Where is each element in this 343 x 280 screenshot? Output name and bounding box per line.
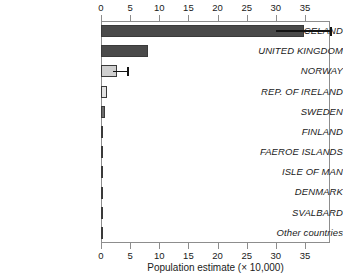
category-label-rep-of-ireland: REP. OF IRELAND [245, 82, 343, 102]
tick-mark-bot-0 [101, 243, 102, 249]
tick-label-bot-15: 15 [173, 250, 203, 261]
tick-label-bot-25: 25 [232, 250, 262, 261]
category-label-norway: NORWAY [245, 61, 343, 81]
bar-row: DENMARK [0, 182, 343, 202]
bar-row: FAEROE ISLANDS [0, 142, 343, 162]
population-estimate-bar-chart: 05101520253035 05101520253035 ICELANDUNI… [0, 0, 343, 280]
bar-rep-of-ireland [101, 86, 107, 98]
tick-label-top-10: 10 [144, 2, 174, 13]
tick-label-top-30: 30 [261, 2, 291, 13]
tick-mark-bot-10 [159, 243, 160, 249]
bar-row: NORWAY [0, 61, 343, 81]
tick-mark-bot-20 [218, 243, 219, 249]
error-bar-line [113, 71, 128, 73]
bar-denmark [101, 187, 103, 199]
error-bar-cap [330, 27, 332, 36]
tick-label-top-20: 20 [203, 2, 233, 13]
bar-other-countries [101, 227, 103, 239]
bar-row: REP. OF IRELAND [0, 82, 343, 102]
tick-label-bot-0: 0 [86, 250, 116, 261]
tick-mark-bot-15 [188, 243, 189, 249]
category-label-denmark: DENMARK [245, 182, 343, 202]
tick-label-top-15: 15 [173, 2, 203, 13]
tick-mark-bot-35 [305, 243, 306, 249]
tick-mark-bot-25 [247, 243, 248, 249]
category-label-sweden: SWEDEN [245, 102, 343, 122]
bar-row: ICELAND [0, 21, 343, 41]
bar-row: SWEDEN [0, 102, 343, 122]
category-label-faeroe-islands: FAEROE ISLANDS [245, 142, 343, 162]
bar-row: FINLAND [0, 122, 343, 142]
tick-label-top-5: 5 [115, 2, 145, 13]
bar-iceland [101, 25, 304, 37]
category-label-united-kingdom: UNITED KINGDOM [245, 41, 343, 61]
bar-row: Other countries [0, 223, 343, 243]
bar-row: ISLE OF MAN [0, 162, 343, 182]
tick-label-bot-10: 10 [144, 250, 174, 261]
bar-finland [101, 126, 103, 138]
tick-label-top-35: 35 [290, 2, 320, 13]
category-label-isle-of-man: ISLE OF MAN [245, 162, 343, 182]
tick-label-bot-30: 30 [261, 250, 291, 261]
bar-faeroe-islands [101, 146, 103, 158]
error-bar-cap [127, 67, 129, 76]
tick-label-top-25: 25 [232, 2, 262, 13]
category-label-finland: FINLAND [245, 122, 343, 142]
category-label-svalbard: SVALBARD [245, 203, 343, 223]
error-bar-line [276, 30, 330, 32]
tick-label-bot-35: 35 [290, 250, 320, 261]
tick-label-bot-5: 5 [115, 250, 145, 261]
bar-isle-of-man [101, 166, 103, 178]
tick-mark-bot-30 [276, 243, 277, 249]
tick-label-bot-20: 20 [203, 250, 233, 261]
category-label-other-countries: Other countries [245, 223, 343, 243]
tick-label-top-0: 0 [86, 2, 116, 13]
bar-sweden [101, 106, 105, 118]
bar-svalbard [101, 207, 103, 219]
x-axis-title: Population estimate (× 10,000) [101, 262, 330, 273]
bar-united-kingdom [101, 45, 148, 57]
bar-row: SVALBARD [0, 203, 343, 223]
bar-row: UNITED KINGDOM [0, 41, 343, 61]
tick-mark-bot-5 [130, 243, 131, 249]
